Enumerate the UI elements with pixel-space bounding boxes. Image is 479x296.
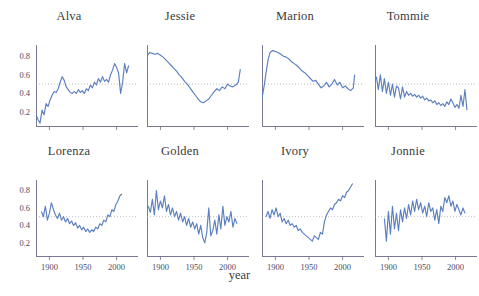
plot-area-tommie xyxy=(375,45,479,134)
y-tick-label: 0.2 xyxy=(4,238,30,248)
series-line-tommie xyxy=(376,75,467,110)
series-line-ivory xyxy=(266,183,353,241)
y-tick-label: 0.6 xyxy=(4,70,30,80)
panel-title-jessie: Jessie xyxy=(113,9,247,24)
x-axis-label: year xyxy=(0,268,479,283)
y-tick-label: 0.2 xyxy=(4,107,30,117)
series-line-jessie xyxy=(147,52,240,102)
panel-title-jonnie: Jonnie xyxy=(341,144,475,159)
plot-area-jonnie xyxy=(375,180,479,264)
series-line-jonnie xyxy=(384,196,465,241)
series-line-lorenza xyxy=(41,194,122,232)
y-tick-label: 0.8 xyxy=(4,51,30,61)
panel-title-golden: Golden xyxy=(113,144,247,159)
y-tick-label: 0.4 xyxy=(4,88,30,98)
y-tick-label: 0.6 xyxy=(4,203,30,213)
y-tick-label: 0.4 xyxy=(4,220,30,230)
y-tick-label: 0.8 xyxy=(4,185,30,195)
small-multiples-figure: Alva0.20.40.60.8JessieMarionTommieLorenz… xyxy=(0,0,479,296)
panel-title-tommie: Tommie xyxy=(341,9,475,24)
